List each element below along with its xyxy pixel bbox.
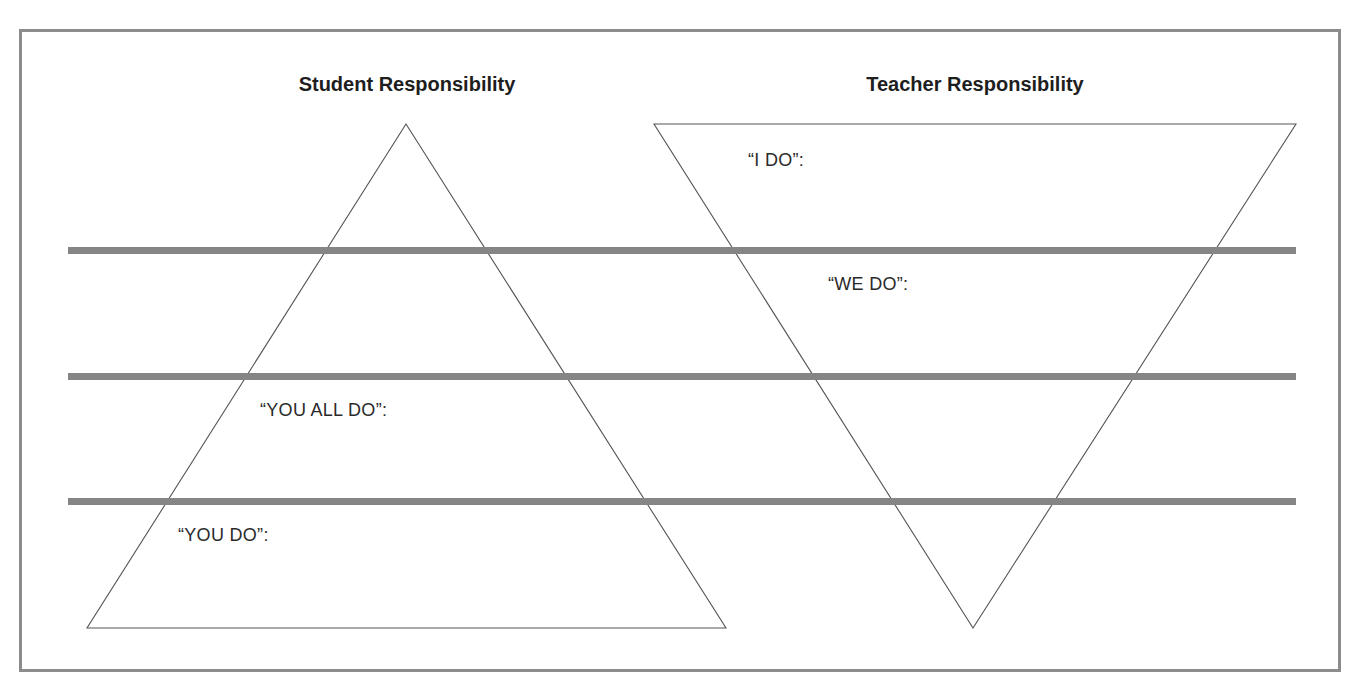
- you-all-do-label: “YOU ALL DO”:: [260, 400, 387, 421]
- i-do-label: “I DO”:: [748, 150, 804, 171]
- you-do-label: “YOU DO”:: [178, 525, 269, 546]
- teacher-responsibility-title: Teacher Responsibility: [866, 73, 1083, 96]
- gradual-release-diagram: [0, 0, 1365, 691]
- we-do-label: “WE DO”:: [828, 274, 908, 295]
- divider-band-1: [68, 247, 1296, 254]
- divider-band-3: [68, 498, 1296, 505]
- student-responsibility-title: Student Responsibility: [299, 73, 516, 96]
- divider-band-2: [68, 373, 1296, 380]
